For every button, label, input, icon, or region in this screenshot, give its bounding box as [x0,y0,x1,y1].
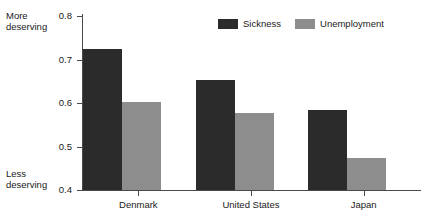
y-tick-mark [77,190,82,191]
y-tick-label: 0.7 [16,55,72,65]
bar-unemployment-japan [347,158,386,190]
y-tick-label: 0.8 [16,11,72,21]
legend-swatch-icon [218,19,238,29]
plot-area [82,16,420,190]
axis-note-less-line1: Less [6,168,47,179]
bar-unemployment-denmark [122,102,161,190]
y-tick-label: 0.5 [16,142,72,152]
chart-legend: SicknessUnemployment [218,18,384,29]
x-tick-label-united-states: United States [222,199,279,210]
legend-item-sickness: Sickness [218,18,281,29]
bar-unemployment-united-states [235,113,274,190]
bar-chart: More deserving Less deserving 0.80.70.60… [0,0,426,218]
bar-sickness-denmark [83,49,122,190]
axis-note-more-line2: deserving [6,21,47,32]
bar-sickness-japan [308,110,347,190]
x-tick-mark [364,191,365,196]
x-tick-mark [138,191,139,196]
x-tick-label-denmark: Denmark [119,199,158,210]
x-tick-mark [251,191,252,196]
legend-label: Unemployment [320,18,384,29]
y-tick-label: 0.6 [16,98,72,108]
bar-sickness-united-states [196,80,235,190]
legend-item-unemployment: Unemployment [295,18,384,29]
y-tick-label: 0.4 [16,185,72,195]
legend-label: Sickness [243,18,281,29]
legend-swatch-icon [295,19,315,29]
x-tick-label-japan: Japan [351,199,377,210]
